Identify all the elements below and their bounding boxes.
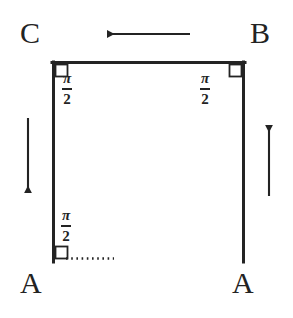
fraction-bar bbox=[200, 88, 210, 90]
fraction-denominator: 2 bbox=[61, 228, 71, 245]
vertex-label-c: C bbox=[20, 18, 40, 48]
vertex-label-a-left: A bbox=[20, 268, 42, 298]
fraction-numerator: π bbox=[62, 71, 72, 88]
vertex-label-a-right: A bbox=[232, 268, 254, 298]
angle-label-top-right: π 2 bbox=[200, 71, 210, 108]
fraction-bar bbox=[61, 225, 71, 227]
fraction-pi-over-two: π 2 bbox=[200, 71, 210, 108]
figure-canvas: C B A A π 2 π 2 π 2 bbox=[0, 0, 293, 318]
fraction-denominator: 2 bbox=[62, 91, 72, 108]
fraction-numerator: π bbox=[61, 208, 71, 225]
fraction-pi-over-two: π 2 bbox=[61, 208, 71, 245]
fraction-bar bbox=[62, 88, 72, 90]
fraction-numerator: π bbox=[200, 71, 210, 88]
angle-label-top-left: π 2 bbox=[62, 71, 72, 108]
right-angle-marker-top-right bbox=[230, 65, 242, 77]
fraction-pi-over-two: π 2 bbox=[62, 71, 72, 108]
right-angle-marker-bottom-left bbox=[56, 247, 68, 259]
vertex-label-b: B bbox=[250, 18, 270, 48]
angle-label-bottom-left: π 2 bbox=[61, 208, 71, 245]
fraction-denominator: 2 bbox=[200, 91, 210, 108]
